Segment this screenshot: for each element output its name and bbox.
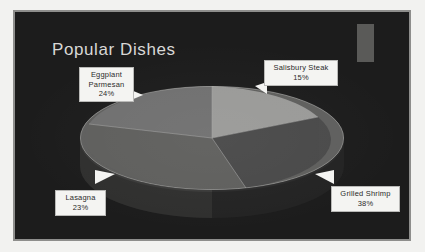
salisbury-steak-label-line1: Salisbury Steak: [273, 63, 328, 72]
grilled-shrimp-percent: 38%: [336, 199, 395, 209]
slide-page: Popular Dishes: [0, 0, 425, 252]
lasagna-percent: 23%: [60, 203, 101, 213]
pie-label-lasagna[interactable]: Lasagna 23%: [55, 190, 106, 216]
grilled-shrimp-callout-tail: [315, 170, 334, 184]
pie-chart-canvas: Popular Dishes: [15, 12, 409, 239]
pie-label-grilled-shrimp[interactable]: Grilled Shrimp 38%: [331, 186, 400, 212]
eggplant-parmesan-percent: 24%: [84, 89, 129, 99]
lasagna-label-line1: Lasagna: [65, 193, 95, 202]
eggplant-parmesan-label-line2: Parmesan: [89, 80, 125, 89]
eggplant-parmesan-label-line1: Eggplant: [91, 70, 122, 79]
top-right-bar-artifact: [357, 24, 374, 62]
grilled-shrimp-label-line1: Grilled Shrimp: [340, 189, 390, 198]
salisbury-steak-percent: 15%: [269, 73, 333, 83]
pie-label-salisbury-steak[interactable]: Salisbury Steak 15%: [264, 60, 338, 86]
lasagna-callout-tail: [95, 170, 115, 184]
chart-title: Popular Dishes: [52, 40, 176, 60]
pie-label-eggplant-parmesan[interactable]: Eggplant Parmesan 24%: [79, 67, 134, 102]
